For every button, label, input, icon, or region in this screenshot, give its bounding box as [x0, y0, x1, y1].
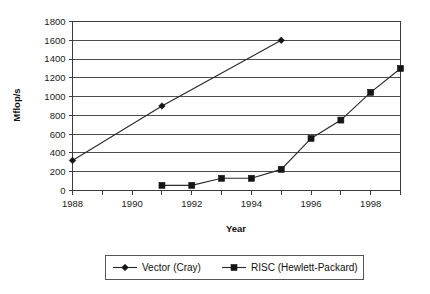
data-point-square-marker	[159, 182, 165, 188]
line-chart: 020040060080010001200140016001800 198819…	[0, 0, 430, 294]
x-tick-label: 1998	[360, 198, 381, 209]
chart-container: 020040060080010001200140016001800 198819…	[0, 0, 430, 294]
data-point-square-marker	[338, 117, 344, 123]
series-line	[73, 40, 282, 160]
data-point-square-marker	[248, 175, 254, 181]
x-axis-ticks	[73, 191, 401, 195]
legend-label: RISC (Hewlett-Packard)	[251, 262, 358, 273]
x-tick-label: 1992	[181, 198, 202, 209]
x-tick-label: 1996	[300, 198, 321, 209]
data-point-square-marker	[231, 265, 237, 271]
y-tick-label: 1000	[44, 91, 65, 102]
data-point-square-marker	[278, 166, 284, 172]
data-point-square-marker	[368, 89, 374, 95]
data-point-diamond-marker	[159, 103, 166, 110]
y-tick-label: 1600	[44, 35, 65, 46]
x-axis-tick-labels: 198819901992199419961998	[62, 198, 381, 209]
y-tick-label: 1800	[44, 16, 65, 27]
y-tick-label: 400	[50, 147, 66, 158]
y-tick-label: 1400	[44, 53, 65, 64]
y-tick-label: 600	[50, 129, 66, 140]
plot-frame	[73, 22, 401, 191]
gridlines-group	[73, 22, 401, 172]
data-point-diamond-marker	[69, 157, 76, 164]
x-tick-label: 1988	[62, 198, 83, 209]
y-tick-label: 0	[60, 185, 65, 196]
y-tick-label: 200	[50, 166, 66, 177]
data-point-square-marker	[308, 135, 314, 141]
data-point-square-marker	[189, 182, 195, 188]
y-axis-title: Mflop/s	[11, 88, 22, 121]
legend-label: Vector (Cray)	[142, 262, 201, 273]
chart-legend: Vector (Cray)RISC (Hewlett-Packard)	[106, 256, 364, 280]
y-tick-label: 800	[50, 110, 66, 121]
data-point-square-marker	[398, 65, 404, 71]
y-axis-tick-labels: 020040060080010001200140016001800	[44, 16, 65, 196]
data-point-diamond-marker	[278, 37, 285, 44]
x-tick-label: 1994	[241, 198, 262, 209]
data-point-square-marker	[219, 175, 225, 181]
x-tick-label: 1990	[122, 198, 143, 209]
plot-area-border	[73, 22, 401, 191]
y-tick-label: 1200	[44, 72, 65, 83]
series-risc-hewlett-packard	[159, 65, 404, 188]
series-group	[69, 37, 403, 188]
series-vector-cray	[69, 37, 284, 164]
x-axis-title: Year	[226, 223, 246, 234]
y-axis-ticks	[69, 22, 73, 191]
